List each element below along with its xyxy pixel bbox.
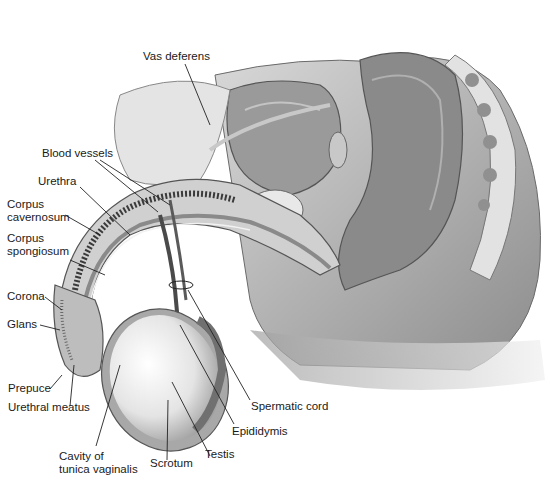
- label-corpus-cavernosum-line1: Corpus: [7, 198, 44, 211]
- label-glans: Glans: [7, 318, 37, 331]
- label-urethra: Urethra: [38, 175, 76, 188]
- label-scrotum: Scrotum: [150, 457, 193, 470]
- label-testis: Testis: [205, 448, 234, 461]
- label-corona: Corona: [7, 290, 45, 303]
- scrotum-testis: [82, 291, 248, 469]
- label-cavity-tunica-line1: Cavity of: [59, 450, 104, 463]
- anatomy-diagram: Vas deferens Blood vessels Urethra Corpu…: [0, 0, 550, 501]
- label-corpus-cavernosum-line2: cavernosum: [7, 211, 70, 224]
- label-prepuce: Prepuce: [8, 382, 51, 395]
- label-vas-deferens: Vas deferens: [143, 50, 210, 63]
- label-corpus-spongiosum-line1: Corpus: [7, 232, 44, 245]
- label-epididymis: Epididymis: [232, 425, 288, 438]
- label-urethral-meatus: Urethral meatus: [8, 401, 90, 414]
- label-spermatic-cord: Spermatic cord: [251, 400, 328, 413]
- pubic-tissue: [114, 81, 230, 185]
- label-corpus-spongiosum-line2: spongiosum: [7, 245, 69, 258]
- label-blood-vessels: Blood vessels: [42, 147, 113, 160]
- label-cavity-tunica-line2: tunica vaginalis: [59, 463, 138, 476]
